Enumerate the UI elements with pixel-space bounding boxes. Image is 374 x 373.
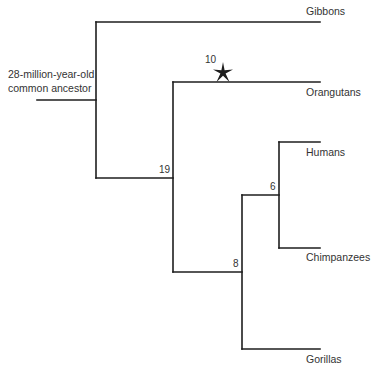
- taxon-label-humans: Humans: [306, 146, 345, 159]
- marker-label: 10: [205, 54, 216, 66]
- taxon-label-orangutans: Orangutans: [306, 86, 361, 99]
- node-label-8: 8: [233, 258, 239, 270]
- taxon-label-gorillas: Gorillas: [306, 353, 342, 366]
- phylogenetic-tree: [0, 0, 374, 373]
- taxon-label-chimpanzees: Chimpanzees: [306, 251, 370, 264]
- root-label: 28-million-year-old common ancestor: [8, 67, 94, 95]
- taxon-label-gibbons: Gibbons: [306, 5, 345, 18]
- node-label-19: 19: [159, 164, 170, 176]
- root-label-line2: common ancestor: [8, 81, 94, 95]
- node-label-6: 6: [270, 181, 276, 193]
- root-label-line1: 28-million-year-old: [8, 67, 94, 81]
